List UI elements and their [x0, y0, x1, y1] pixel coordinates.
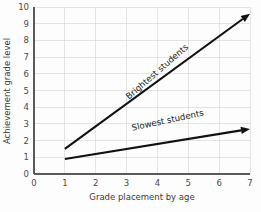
y-tick-label: 2: [24, 136, 29, 146]
x-tick-label: 5: [186, 178, 191, 188]
chart-screenshot: 012345678910 01234567 Brightest students…: [0, 0, 261, 212]
line-chart: 012345678910 01234567 Brightest students…: [0, 0, 261, 212]
y-tick-label: 8: [24, 35, 29, 45]
x-tick-label: 7: [247, 178, 252, 188]
series-line: [65, 130, 241, 159]
y-tick-label: 7: [24, 52, 29, 62]
y-tick-label: 5: [24, 86, 29, 96]
y-tick-labels: 012345678910: [18, 2, 29, 179]
y-tick-label: 9: [24, 19, 29, 29]
y-tick-label: 4: [24, 102, 29, 112]
y-tick-label: 6: [24, 69, 29, 79]
series-line: [65, 19, 243, 149]
series-arrowhead: [241, 127, 250, 134]
x-tick-label: 6: [216, 178, 221, 188]
x-tick-label: 0: [31, 178, 36, 188]
x-tick-label: 4: [155, 178, 160, 188]
x-tick-label: 2: [93, 178, 98, 188]
x-tick-label: 3: [124, 178, 129, 188]
x-axis-title: Grade placement by age: [89, 192, 194, 202]
x-tick-label: 1: [62, 178, 67, 188]
x-tick-labels: 01234567: [31, 178, 252, 188]
y-tick-label: 1: [24, 152, 29, 162]
y-tick-label: 3: [24, 119, 29, 129]
y-axis-title: Achievement grade level: [2, 38, 12, 144]
y-tick-label: 0: [24, 169, 29, 179]
series-label: Slowest students: [131, 108, 205, 133]
y-tick-label: 10: [18, 2, 29, 12]
